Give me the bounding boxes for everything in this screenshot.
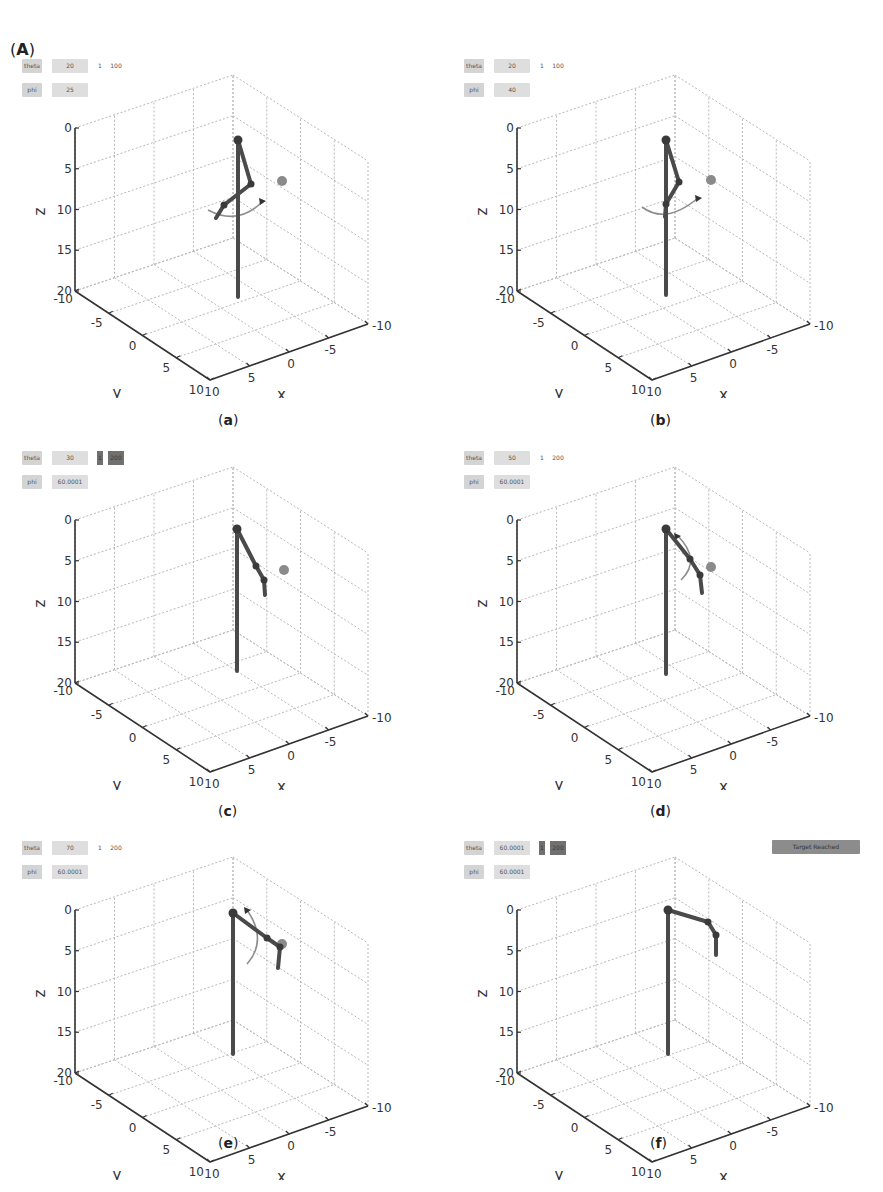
y-tick-label: -5 <box>533 708 545 722</box>
y-tick-label: -10 <box>495 1074 515 1088</box>
arm-joint <box>261 577 268 584</box>
grid-lines <box>75 467 368 772</box>
max-iterations-input[interactable]: 200 <box>550 841 566 855</box>
x-tick-label: 0 <box>287 357 295 371</box>
theta-input[interactable]: 70 <box>52 841 88 855</box>
theta-input[interactable]: 60.0001 <box>494 841 530 855</box>
phi-input[interactable]: 60.0001 <box>494 865 530 879</box>
grid-lines <box>517 857 810 1162</box>
z-tick-label: 0 <box>506 121 514 135</box>
y-tick-label: 5 <box>605 361 613 375</box>
x-axis-label: x <box>277 1168 286 1180</box>
x-tick-label: -10 <box>814 1101 834 1115</box>
arm-joint <box>713 932 720 939</box>
y-axis-label: y <box>555 776 564 790</box>
y-tick-label: -10 <box>495 684 515 698</box>
x-axis-label: x <box>719 1168 728 1180</box>
max-iterations-input[interactable]: 100 <box>550 59 566 73</box>
theta-input[interactable]: 30 <box>52 451 88 465</box>
step-input[interactable]: 1 <box>539 841 545 855</box>
robot-arm <box>233 525 268 672</box>
max-iterations-input[interactable]: 100 <box>108 59 124 73</box>
robot-arm-panel-c: 05101520-10-505101050-5-10zyxtheta301200… <box>10 450 440 840</box>
y-tick-label: 0 <box>571 1121 579 1135</box>
robot-arm-panel-a: 05101520-10-505101050-5-10zyxtheta201100… <box>10 58 440 448</box>
step-input[interactable]: 1 <box>539 451 545 465</box>
subfigure-caption-f: (f) <box>650 1135 667 1151</box>
3d-axes[interactable]: 05101520-10-505101050-5-10zyx <box>452 450 882 790</box>
grid-lines <box>75 75 368 380</box>
subfigure-caption-e: (e) <box>218 1135 238 1151</box>
theta-input[interactable]: 20 <box>494 59 530 73</box>
3d-axes[interactable]: 05101520-10-505101050-5-10zyx <box>10 58 440 398</box>
angle-controls: theta201100phi25 <box>22 58 124 106</box>
step-input[interactable]: 1 <box>97 451 103 465</box>
step-input[interactable]: 1 <box>97 59 103 73</box>
y-tick-label: 0 <box>571 731 579 745</box>
theta-input[interactable]: 50 <box>494 451 530 465</box>
subfigure-caption-d: (d) <box>650 803 671 819</box>
theta-input[interactable]: 20 <box>52 59 88 73</box>
y-tick-label: 5 <box>163 753 171 767</box>
phi-input[interactable]: 25 <box>52 83 88 97</box>
x-tick-label: -10 <box>372 1101 392 1115</box>
target-marker <box>706 175 716 185</box>
z-tick-label: 0 <box>64 513 72 527</box>
y-tick-label: -5 <box>91 316 103 330</box>
step-input[interactable]: 1 <box>539 59 545 73</box>
arm-joint <box>662 525 671 534</box>
step-input[interactable]: 1 <box>97 841 103 855</box>
phi-input[interactable]: 40 <box>494 83 530 97</box>
3d-axes[interactable]: 05101520-10-505101050-5-10zyx <box>452 840 882 1180</box>
x-tick-label: 10 <box>204 777 219 790</box>
x-tick-label: 0 <box>729 357 737 371</box>
robot-arm-panel-d: 05101520-10-505101050-5-10zyxtheta501200… <box>452 450 882 840</box>
y-tick-label: 0 <box>129 1121 137 1135</box>
angle-controls: theta301200phi60.0001 <box>22 450 124 498</box>
arm-joint <box>697 572 704 579</box>
z-tick-label: 15 <box>57 243 72 257</box>
x-tick-label: -5 <box>325 735 337 749</box>
z-tick-label: 10 <box>57 203 72 217</box>
y-tick-label: -10 <box>53 1074 73 1088</box>
arm-joint <box>234 136 243 145</box>
theta-label: theta <box>22 59 42 73</box>
3d-axes[interactable]: 05101520-10-505101050-5-10zyx <box>452 58 882 398</box>
z-tick-label: 5 <box>64 162 72 176</box>
z-axis-label: z <box>31 208 49 216</box>
z-tick-label: 15 <box>57 635 72 649</box>
x-axis-label: x <box>277 778 286 790</box>
z-tick-label: 5 <box>64 554 72 568</box>
theta-label: theta <box>464 59 484 73</box>
3d-axes[interactable]: 05101520-10-505101050-5-10zyx <box>10 840 440 1180</box>
arm-joint <box>233 525 242 534</box>
3d-axes[interactable]: 05101520-10-505101050-5-10zyx <box>10 450 440 790</box>
phi-input[interactable]: 60.0001 <box>494 475 530 489</box>
y-tick-label: 5 <box>605 1143 613 1157</box>
max-iterations-input[interactable]: 200 <box>108 841 124 855</box>
x-tick-label: 0 <box>729 1139 737 1153</box>
grid-lines <box>517 75 810 380</box>
max-iterations-input[interactable]: 200 <box>550 451 566 465</box>
y-tick-label: 0 <box>571 339 579 353</box>
z-tick-label: 10 <box>499 985 514 999</box>
arm-joint <box>663 201 670 208</box>
arm-joint <box>253 563 260 570</box>
y-tick-label: -5 <box>91 1098 103 1112</box>
angle-controls: theta201100phi40 <box>464 58 566 106</box>
theta-label: theta <box>464 841 484 855</box>
x-tick-label: 0 <box>287 1139 295 1153</box>
y-tick-label: -10 <box>53 292 73 306</box>
target-reached-button[interactable]: Target Reached <box>772 840 860 854</box>
angle-controls: theta701200phi60.0001 <box>22 840 124 888</box>
phi-input[interactable]: 60.0001 <box>52 475 88 489</box>
y-tick-label: -10 <box>53 684 73 698</box>
caption-letter: d <box>655 803 665 819</box>
phi-input[interactable]: 60.0001 <box>52 865 88 879</box>
arm-joint <box>264 935 271 942</box>
z-tick-label: 5 <box>506 162 514 176</box>
x-tick-label: -10 <box>814 319 834 333</box>
x-tick-label: 10 <box>204 1167 219 1180</box>
max-iterations-input[interactable]: 200 <box>108 451 124 465</box>
z-tick-label: 5 <box>64 944 72 958</box>
